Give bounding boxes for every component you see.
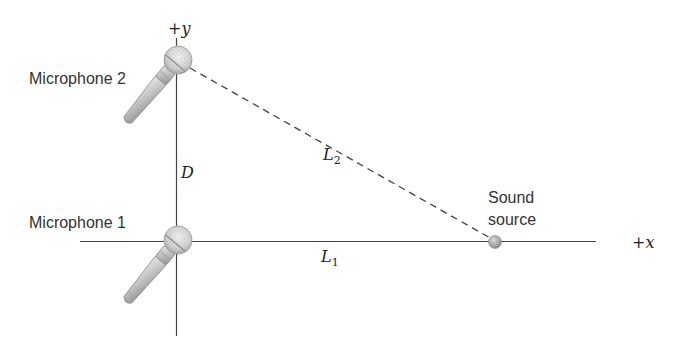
l2-label: L2	[322, 145, 341, 167]
y-axis-label: +y	[168, 19, 191, 38]
l1-subscript: 1	[332, 256, 339, 269]
l1-main: L	[320, 247, 332, 266]
l2-main: L	[322, 145, 334, 164]
sound-source-dot	[489, 236, 502, 249]
distance-d-label: D	[180, 163, 194, 182]
x-axis-label: +x	[632, 233, 654, 252]
diagram-canvas: +y +x Microphone 2 Microphone 1 D L2 L1 …	[0, 0, 687, 341]
l1-label: L1	[320, 247, 339, 269]
microphone-2-icon	[115, 40, 198, 131]
microphone-2-label: Microphone 2	[29, 70, 126, 87]
sound-source-label-line1: Sound	[488, 189, 534, 206]
microphone-1-icon	[115, 220, 198, 311]
microphone-1-label: Microphone 1	[29, 214, 126, 231]
l2-subscript: 2	[334, 154, 341, 167]
sound-source-label-line2: source	[488, 211, 536, 228]
l2-dashed-line	[190, 68, 492, 239]
